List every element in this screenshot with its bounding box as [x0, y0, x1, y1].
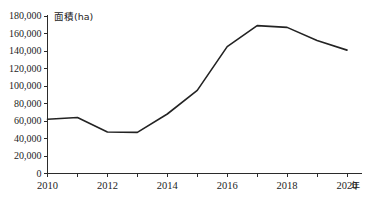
y-axis-label: 面積(ha) [54, 11, 93, 22]
y-axis-tick-label: 20,000 [14, 150, 42, 161]
y-axis-tick-label: 80,000 [14, 98, 42, 109]
y-axis-tick-label: 180,000 [9, 10, 42, 21]
chart-background [0, 0, 376, 198]
y-axis-tick-label: 160,000 [9, 28, 42, 39]
y-axis-tick-label: 100,000 [9, 80, 42, 91]
x-axis-unit-label: 年 [351, 180, 360, 191]
line-chart: 020,00040,00060,00080,000100,000120,0001… [0, 0, 376, 198]
y-axis-tick-label: 120,000 [9, 63, 42, 74]
x-axis-tick-label: 2012 [97, 180, 118, 191]
x-axis-tick-label: 2016 [217, 180, 238, 191]
x-axis-tick-label: 2010 [37, 180, 58, 191]
x-axis-tick-label: 2014 [157, 180, 179, 191]
chart-canvas: 020,00040,00060,00080,000100,000120,0001… [0, 0, 376, 198]
y-axis-tick-label: 140,000 [9, 45, 42, 56]
y-axis-tick-label: 0 [37, 168, 42, 179]
y-axis-tick-label: 40,000 [14, 133, 42, 144]
x-axis-tick-label: 2018 [277, 180, 298, 191]
y-axis-tick-label: 60,000 [14, 115, 42, 126]
